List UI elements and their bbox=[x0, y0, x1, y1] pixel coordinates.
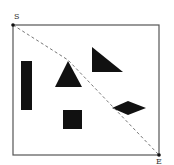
obstacle-square bbox=[63, 110, 82, 129]
start-point bbox=[11, 23, 15, 27]
obstacle-right-triangle bbox=[92, 47, 123, 72]
border-rect bbox=[13, 25, 159, 155]
diagram-canvas: S E bbox=[0, 0, 174, 165]
dashed-path bbox=[13, 25, 159, 155]
obstacles-group bbox=[21, 47, 146, 129]
obstacle-diamond bbox=[112, 101, 146, 115]
obstacle-vertical-bar bbox=[21, 61, 32, 110]
end-label: E bbox=[156, 157, 162, 165]
obstacle-upright-triangle bbox=[55, 61, 82, 87]
start-label: S bbox=[14, 12, 19, 21]
